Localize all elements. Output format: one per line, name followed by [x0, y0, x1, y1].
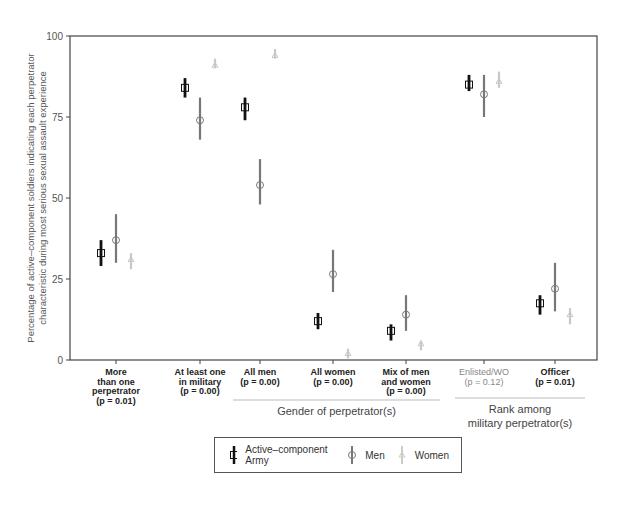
- y-tick-label: 75: [52, 112, 64, 123]
- legend-item-men: Men: [347, 445, 384, 465]
- data-series: [98, 49, 574, 358]
- group-label: Gender of perpetrator(s): [277, 405, 396, 417]
- category-groups: Gender of perpetrator(s)Rank amongmilita…: [233, 398, 585, 429]
- series-square: [98, 75, 544, 341]
- legend: Active–component Army Men Women: [214, 437, 462, 473]
- category-label: At least one: [174, 367, 225, 377]
- y-tick-label: 25: [52, 274, 64, 285]
- group-label: military perpetrator(s): [468, 417, 573, 429]
- category-label: All men: [244, 367, 277, 377]
- category-label: and women: [381, 377, 431, 387]
- y-axis: 0255075100: [46, 31, 70, 366]
- category-label: (p = 0.00): [313, 377, 352, 387]
- group-label: Rank among: [489, 403, 551, 415]
- plot-frame: [70, 36, 597, 360]
- legend-label: Men: [365, 450, 384, 461]
- category-label: More: [105, 367, 127, 377]
- triangle-marker-icon: [397, 445, 407, 465]
- series-circle: [113, 75, 559, 331]
- category-label: All women: [310, 367, 355, 377]
- category-label: (p = 0.01): [96, 396, 135, 406]
- x-axis: Morethan oneperpetrator(p = 0.01)At leas…: [92, 360, 575, 406]
- category-label: than one: [97, 377, 135, 387]
- category-label: (p = 0.01): [535, 377, 574, 387]
- category-label: Officer: [540, 367, 570, 377]
- category-label: (p = 0.00): [386, 386, 425, 396]
- category-label: (p = 0.12): [465, 377, 504, 387]
- category-label: in military: [179, 377, 222, 387]
- category-label: Mix of men: [382, 367, 429, 377]
- y-axis-label: Percentage of active–component soldiers …: [25, 53, 48, 342]
- legend-label: Active–component Army: [245, 444, 335, 466]
- category-label: Enlisted/WO: [459, 367, 509, 377]
- y-tick-label: 0: [57, 355, 63, 366]
- category-label: (p = 0.00): [180, 386, 219, 396]
- legend-label: Women: [415, 450, 449, 461]
- legend-item-women: Women: [397, 445, 449, 465]
- circle-marker-icon: [347, 445, 357, 465]
- y-tick-label: 50: [52, 193, 64, 204]
- y-axis-label-line: characteristic during most serious sexua…: [37, 71, 48, 324]
- chart: Percentage of active–component soldiers …: [0, 0, 628, 506]
- square-marker-icon: [229, 445, 237, 465]
- category-label: (p = 0.00): [240, 377, 279, 387]
- y-axis-label-line: Percentage of active–component soldiers …: [25, 53, 36, 342]
- legend-item-army: Active–component Army: [229, 444, 335, 466]
- y-tick-label: 100: [46, 31, 63, 42]
- category-label: perpetrator: [92, 386, 141, 396]
- series-triangle: [128, 49, 573, 358]
